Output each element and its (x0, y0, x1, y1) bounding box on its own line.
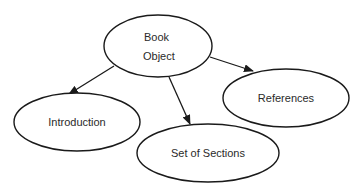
node-set-of-sections: Set of Sections (137, 124, 279, 182)
node-label: References (258, 92, 315, 104)
node-book-object: Book Object (104, 15, 212, 77)
diagram-canvas: Book Object Introduction Set of Sections… (0, 0, 363, 192)
edge-book-to-introduction (69, 66, 114, 94)
node-introduction: Introduction (14, 93, 140, 151)
node-label: Object (143, 50, 175, 62)
node-label: Introduction (48, 116, 105, 128)
edge-book-to-sections (169, 77, 190, 124)
node-label: Set of Sections (171, 147, 245, 159)
node-references: References (223, 69, 349, 127)
node-label: Book (144, 31, 170, 43)
edge-book-to-references (210, 57, 253, 71)
